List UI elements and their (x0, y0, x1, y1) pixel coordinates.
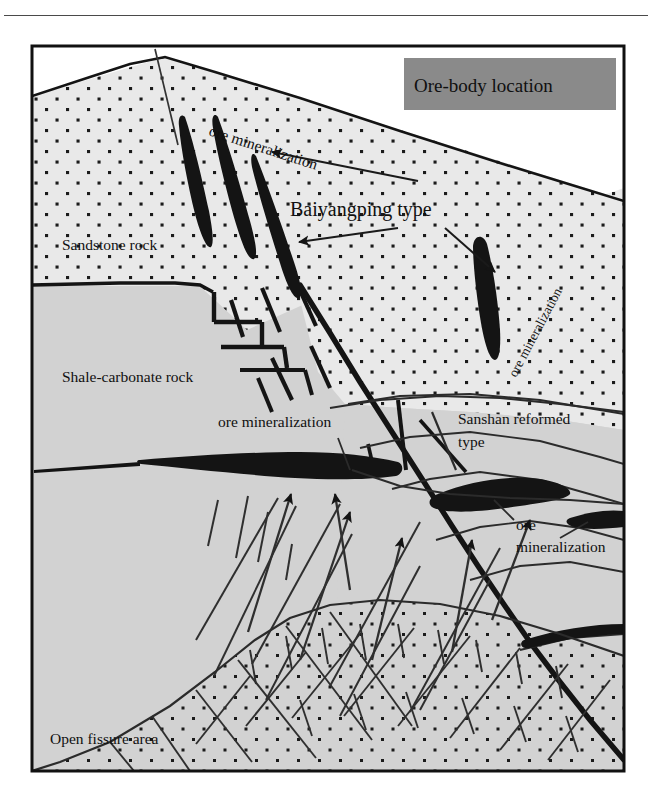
label-sanshan-reformed-type-1: Sanshan reformed (458, 410, 571, 427)
label-ore-mineralization-mid: ore mineralization (218, 413, 331, 430)
label-open-fissure-area: Open fissure area (50, 730, 159, 747)
label-ore-lower-right-2: mineralization (516, 538, 606, 555)
label-baiyangping-type: Baiyangping type (290, 198, 432, 221)
title-box: Ore-body location (404, 58, 616, 110)
label-sanshan-reformed-type-2: type (458, 433, 485, 450)
figure-root: Sandstone rock Shale-carbonate rock Open… (0, 0, 652, 804)
label-shale-carbonate-rock: Shale-carbonate rock (62, 368, 194, 385)
label-sandstone-rock: Sandstone rock (62, 236, 157, 253)
title-box-label: Ore-body location (414, 75, 553, 96)
cross-section-diagram: Sandstone rock Shale-carbonate rock Open… (0, 0, 652, 804)
label-ore-lower-right-1: ore (516, 516, 536, 533)
